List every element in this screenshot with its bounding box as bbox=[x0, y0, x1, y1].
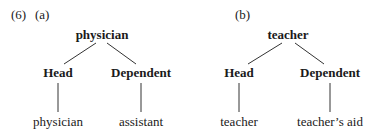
example-number: (6) bbox=[11, 8, 26, 22]
edge-b-root-head bbox=[248, 43, 282, 64]
tree-b-head-leaf: teacher bbox=[220, 115, 258, 129]
tree-a-dependent-leaf: assistant bbox=[119, 115, 163, 129]
tree-a-root: physician bbox=[76, 28, 129, 42]
tree-b-dependent-node: Dependent bbox=[300, 66, 360, 80]
tree-a-dependent-node: Dependent bbox=[111, 66, 171, 80]
edge-a-root-head bbox=[64, 43, 96, 64]
tree-b-head-node: Head bbox=[224, 66, 254, 80]
edge-a-root-dependent bbox=[107, 43, 136, 64]
tree-a-head-leaf: physician bbox=[33, 115, 83, 129]
tree-b-dependent-leaf: teacher’s aid bbox=[297, 115, 363, 129]
edge-b-root-dependent bbox=[295, 43, 324, 64]
tree-a-label: (a) bbox=[35, 8, 49, 22]
tree-b-label: (b) bbox=[235, 8, 250, 22]
tree-a-head-node: Head bbox=[43, 66, 73, 80]
tree-b-root: teacher bbox=[267, 28, 308, 42]
